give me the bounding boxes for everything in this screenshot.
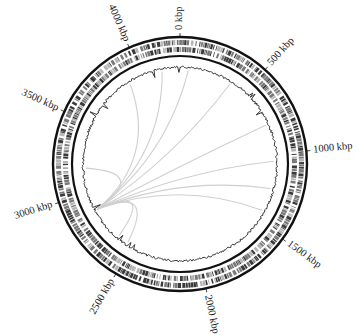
gene-feature xyxy=(232,270,237,276)
gene-feature xyxy=(191,275,194,280)
gene-feature xyxy=(57,146,62,149)
position-label-2000-kbp: 2000 kbp xyxy=(203,294,222,335)
gene-feature xyxy=(157,42,161,47)
gene-feature xyxy=(297,182,302,185)
gene-feature xyxy=(201,42,204,47)
gene-feature xyxy=(176,276,178,281)
gene-feature xyxy=(195,41,197,46)
gene-feature xyxy=(286,125,291,128)
gene-feature xyxy=(56,166,61,169)
gene-feature xyxy=(164,282,167,287)
gene-feature xyxy=(140,54,142,59)
gene-feature xyxy=(290,143,295,146)
gene-feature xyxy=(64,179,69,182)
gene-feature xyxy=(254,67,259,73)
gene-feature xyxy=(192,48,196,53)
gene-feature xyxy=(173,40,175,45)
gene-feature xyxy=(182,40,184,45)
gene-feature xyxy=(292,154,297,155)
gene-feature xyxy=(299,172,304,173)
gene-feature xyxy=(299,165,304,167)
gene-feature xyxy=(64,177,69,179)
gene-feature xyxy=(163,41,166,46)
gene-feature xyxy=(57,145,62,147)
gene-feature xyxy=(299,162,304,164)
gene-feature xyxy=(64,175,69,177)
gene-feature xyxy=(187,276,189,281)
gene-feature xyxy=(187,47,189,52)
gene-feature xyxy=(299,156,304,158)
gene-feature xyxy=(298,148,303,152)
synteny-link xyxy=(97,185,270,209)
gene-feature xyxy=(292,161,297,163)
gene-feature xyxy=(208,279,210,284)
synteny-link-arcs xyxy=(86,70,274,242)
gene-feature xyxy=(201,49,205,54)
gene-feature xyxy=(169,47,172,52)
gene-feature xyxy=(56,159,61,162)
gene-feature xyxy=(57,150,62,152)
gene-feature xyxy=(199,42,201,47)
gene-feature xyxy=(270,229,276,234)
gene-feature xyxy=(58,185,63,189)
gene-feature xyxy=(160,41,163,46)
gene-feature xyxy=(254,247,259,253)
gene-feature xyxy=(182,276,183,281)
gene-feature xyxy=(153,280,155,285)
gene-feature xyxy=(213,52,215,57)
gene-feature xyxy=(64,144,69,147)
gene-feature xyxy=(199,49,201,54)
gene-feature xyxy=(299,153,304,156)
gene-feature xyxy=(180,40,182,45)
position-label-3500-kbp: 3500 kbp xyxy=(20,86,60,112)
gene-feature xyxy=(290,180,295,183)
gene-feature xyxy=(298,146,303,148)
outer-backbone-ring xyxy=(53,37,307,291)
synteny-link xyxy=(97,125,265,209)
gene-feature xyxy=(291,206,296,208)
gene-feature xyxy=(58,183,63,185)
gene-feature xyxy=(182,283,185,288)
synteny-link xyxy=(97,72,162,209)
gene-feature xyxy=(56,153,61,155)
gene-feature xyxy=(298,151,303,153)
gene-feature xyxy=(110,60,115,66)
gc-content-track xyxy=(82,66,278,262)
gene-feature xyxy=(170,276,172,281)
position-label-500-kbp: 500 kbp xyxy=(265,35,296,68)
gene-feature xyxy=(77,218,82,222)
gene-feature xyxy=(291,146,296,148)
gene-feature xyxy=(186,283,188,288)
tick-mark xyxy=(265,67,268,70)
gene-feature xyxy=(191,282,194,287)
gene-feature xyxy=(188,283,191,288)
gene-feature xyxy=(56,156,61,159)
gene-feature xyxy=(165,48,167,53)
position-label-3000-kbp: 3000 kbp xyxy=(13,198,54,220)
gene-feature xyxy=(157,274,159,279)
gene-feature xyxy=(56,174,61,175)
gene-feature xyxy=(163,48,165,53)
gene-feature xyxy=(299,169,304,172)
position-label-1000-kbp: 1000 kbp xyxy=(313,140,353,155)
gene-feature xyxy=(63,153,68,156)
gene-feature xyxy=(67,193,73,197)
gene-feature xyxy=(138,276,141,281)
gene-feature xyxy=(63,157,68,159)
gene-feature xyxy=(292,165,297,168)
gene-feature xyxy=(57,180,62,183)
gene-feature xyxy=(155,281,158,286)
gene-feature xyxy=(160,281,163,286)
gene-feature xyxy=(90,77,96,83)
gene-feature xyxy=(193,282,196,287)
gene-feature xyxy=(190,275,191,280)
gene-feature xyxy=(56,152,61,154)
gene-feature xyxy=(216,53,220,58)
gene-feature xyxy=(201,273,204,278)
gene-feature xyxy=(57,177,62,179)
gene-feature xyxy=(57,179,62,180)
gene-feature xyxy=(200,281,203,286)
synteny-link xyxy=(97,202,137,242)
gene-feature xyxy=(128,51,132,56)
circular-genome-map: 0 kbp500 kbp1000 kbp1500 kbp2000 kbp2500… xyxy=(0,0,364,335)
